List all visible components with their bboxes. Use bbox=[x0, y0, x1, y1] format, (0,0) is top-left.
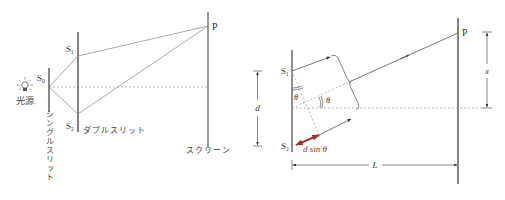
screen-label: スクリーン bbox=[186, 146, 231, 155]
right-s1-label: S1 bbox=[281, 66, 289, 77]
light-rays bbox=[49, 26, 208, 114]
l-label: L bbox=[371, 160, 377, 170]
left-diagram: 光源 S0 S1 S2 P シングルスリット ダブルスリット スクリーン bbox=[16, 12, 231, 182]
perpendicular-line bbox=[292, 71, 319, 135]
brace bbox=[331, 55, 359, 110]
ray-s1 bbox=[292, 57, 330, 71]
right-diagram: S1 S2 P θ θ d sin θ bbox=[253, 18, 492, 184]
light-source-label: 光源 bbox=[16, 95, 34, 106]
p-label: P bbox=[212, 21, 218, 32]
light-bulb-icon bbox=[17, 77, 33, 91]
double-slit-figure: 光源 S0 S1 S2 P シングルスリット ダブルスリット スクリーン S1 bbox=[0, 0, 505, 200]
double-slit-label: ダブルスリット bbox=[83, 125, 146, 135]
angle-theta-1: θ bbox=[294, 93, 298, 102]
ray-s2 bbox=[319, 119, 351, 135]
s1-label: S1 bbox=[66, 44, 74, 55]
right-s2-label: S2 bbox=[281, 141, 289, 152]
s0-label: S0 bbox=[37, 73, 45, 84]
single-slit-label: シングルスリット bbox=[45, 110, 54, 182]
right-p-label: P bbox=[462, 27, 468, 38]
d-label: d bbox=[255, 103, 260, 113]
angle-arc-2 bbox=[319, 97, 321, 108]
angle-arc-1 bbox=[292, 86, 302, 88]
angle-theta-2: θ bbox=[326, 96, 330, 105]
path-difference-label: d sin θ bbox=[303, 144, 328, 154]
s2-label: S2 bbox=[66, 121, 74, 132]
x-label: x bbox=[484, 66, 489, 76]
